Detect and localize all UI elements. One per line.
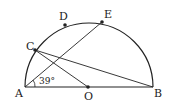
segment-ae [25, 22, 102, 87]
label-d: D [59, 10, 68, 23]
angle-label: 39° [39, 76, 55, 86]
label-b: B [154, 87, 162, 100]
angle-arc [33, 80, 35, 87]
label-c: C [26, 40, 34, 53]
label-e: E [104, 8, 112, 21]
label-a: A [14, 87, 24, 100]
semicircle-diagram: A B O C D E 39° [0, 0, 170, 108]
label-o: O [84, 90, 93, 103]
point-o [86, 85, 90, 89]
point-d [63, 23, 67, 27]
